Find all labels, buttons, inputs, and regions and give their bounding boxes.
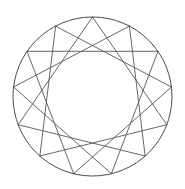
star-polygon-figure: Star polygon inscribed in circle A regul… <box>0 0 185 189</box>
figure-background <box>0 0 185 189</box>
